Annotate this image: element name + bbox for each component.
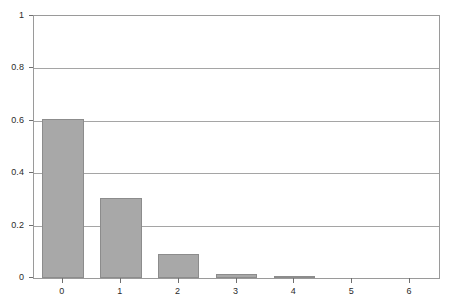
x-tick-label-4: 4 bbox=[291, 287, 296, 296]
x-tick-label-6: 6 bbox=[407, 287, 412, 296]
y-tick-label-1: 1 bbox=[19, 11, 24, 20]
x-tick-mark-5 bbox=[351, 278, 352, 283]
gridline-0-2 bbox=[34, 226, 439, 227]
bar-chart-figure: 1 0.8 0.6 0.4 0.2 0 0123456 bbox=[0, 0, 450, 308]
bar-1 bbox=[100, 198, 142, 278]
gridline-0-4 bbox=[34, 173, 439, 174]
y-tick-label-0-4: 0.4 bbox=[11, 168, 24, 177]
x-tick-mark-1 bbox=[120, 278, 121, 283]
bar-0 bbox=[42, 119, 84, 278]
y-axis: 1 0.8 0.6 0.4 0.2 0 bbox=[0, 0, 30, 308]
gridline-0-6 bbox=[34, 121, 439, 122]
x-tick-mark-2 bbox=[178, 278, 179, 283]
x-tick-mark-4 bbox=[293, 278, 294, 283]
bar-2 bbox=[158, 254, 200, 278]
bar-4 bbox=[274, 276, 316, 278]
x-tick-mark-0 bbox=[62, 278, 63, 283]
x-tick-label-1: 1 bbox=[117, 287, 122, 296]
y-tick-label-0-6: 0.6 bbox=[11, 115, 24, 124]
y-tick-label-0: 0 bbox=[19, 273, 24, 282]
y-tick-label-0-8: 0.8 bbox=[11, 63, 24, 72]
x-tick-label-2: 2 bbox=[175, 287, 180, 296]
x-tick-mark-6 bbox=[409, 278, 410, 283]
x-tick-mark-3 bbox=[236, 278, 237, 283]
y-tick-label-0-2: 0.2 bbox=[11, 220, 24, 229]
x-tick-label-0: 0 bbox=[59, 287, 64, 296]
gridline-0-8 bbox=[34, 68, 439, 69]
plot-area bbox=[33, 15, 440, 279]
x-tick-label-5: 5 bbox=[349, 287, 354, 296]
x-tick-label-3: 3 bbox=[233, 287, 238, 296]
